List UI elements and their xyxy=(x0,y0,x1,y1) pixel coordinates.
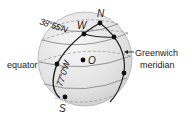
globe-diagram: N W 38°55′N O equator 77°0′W S Greenwich… xyxy=(0,0,192,125)
south-label: S xyxy=(59,103,66,114)
w-point xyxy=(82,32,87,37)
south-pole-point xyxy=(63,95,68,100)
center-point xyxy=(81,58,86,63)
w-label: W xyxy=(77,20,88,31)
greenwich-equator-point xyxy=(122,71,127,76)
center-label: O xyxy=(88,55,96,66)
equator-label: equator xyxy=(7,60,38,70)
north-pole-point xyxy=(98,21,103,26)
greenwich-label-line2: meridian xyxy=(140,60,175,70)
north-label: N xyxy=(97,8,105,19)
greenwich-label-line1: Greenwich xyxy=(135,48,178,58)
greenwich-lat-point xyxy=(112,35,117,40)
equator-point xyxy=(55,62,60,67)
